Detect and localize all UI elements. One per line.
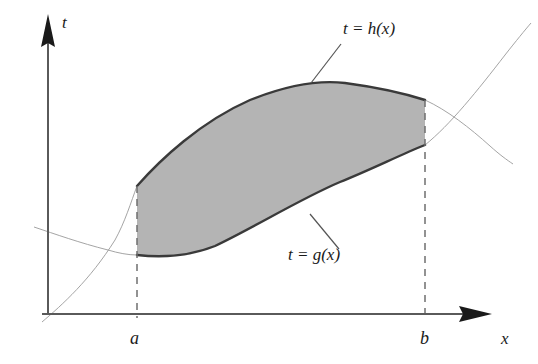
upper-curve-thin-right [425,100,513,164]
tick-label-a: a [130,329,139,347]
lower-curve-thin-left [34,227,137,255]
figure-container: t x t = h(x) t = g(x) a b [0,0,538,364]
lower-curve-thin-right [425,23,531,145]
upper-curve-label: t = h(x) [343,20,395,37]
x-axis-label: x [501,330,509,347]
x-axis-arrowhead-icon [459,306,492,322]
t-axis-label: t [62,14,67,31]
shaded-region [137,82,425,256]
figure-canvas [0,0,538,364]
lower-curve-label: t = g(x) [288,246,340,263]
leader-line-h [311,44,341,83]
t-axis-arrowhead-icon [41,14,55,47]
tick-label-b: b [420,329,429,347]
leader-line-g [310,214,339,249]
